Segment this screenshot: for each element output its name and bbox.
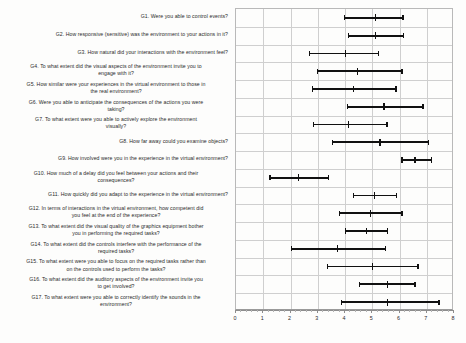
x-tick-minor [437,310,438,312]
category-label: G1. Were you able to control events? [4,13,228,20]
x-tick-minor [333,310,334,312]
x-tick [371,310,372,313]
gridline-horizontal [236,275,452,276]
x-tick-label: 7 [424,315,427,321]
mean-marker [345,50,346,57]
x-tick-label: 4 [343,315,346,321]
mean-marker [372,263,373,270]
category-label-line: G6. Were you able to anticipate the cons… [4,99,228,106]
confidence-interval-line [348,106,423,108]
x-tick-minor [355,310,356,312]
mean-marker [375,14,376,21]
category-label-line: G1. Were you able to control events? [4,13,228,20]
category-label-line: G10. How much of a delay did you feel be… [4,170,228,177]
category-label: G7. To what extent were you able to acti… [4,116,228,130]
gridline-vertical [263,9,264,309]
gridline-horizontal [236,133,452,134]
ci-lower-cap [327,264,328,269]
category-label: G10. How much of a delay did you feel be… [4,170,228,184]
gridline-horizontal [236,258,452,259]
x-tick-minor [404,310,405,312]
gridline-horizontal [236,98,452,99]
x-tick-minor [360,310,361,312]
ci-upper-cap [414,282,415,287]
gridline-horizontal [236,151,452,152]
x-tick-label: 5 [370,315,373,321]
gridline-horizontal [236,222,452,223]
mean-marker [383,103,384,110]
category-label-line: G2. How responsive (sensitive) was the e… [4,31,228,38]
category-label-line: taking? [4,106,228,113]
ci-upper-cap [422,104,423,109]
gridline-horizontal [236,204,452,205]
ci-lower-cap [341,300,342,305]
category-label: G5. How similar were your experiences in… [4,81,228,95]
category-label-line: required tasks? [4,248,228,255]
mean-marker [414,157,415,164]
gridline-horizontal [236,45,452,46]
x-tick-minor [377,310,378,312]
ci-upper-cap [438,300,439,305]
category-label-line: you feel at the end of the experience? [4,212,228,219]
mean-marker [370,210,371,217]
x-tick-minor [339,310,340,312]
confidence-interval-line [341,301,439,303]
category-label-line: G14. To what extent did the controls int… [4,241,228,248]
confidence-interval-line [317,70,401,72]
x-tick-minor [448,310,449,312]
ci-lower-cap [359,282,360,287]
x-tick-label: 2 [288,315,291,321]
ci-lower-cap [401,157,402,162]
category-label-line: engage with it? [4,70,228,77]
mean-marker [366,228,367,235]
category-label-line: G9. How involved were you in the experie… [4,155,228,162]
x-tick-minor [349,310,350,312]
x-tick-minor [300,310,301,312]
ci-upper-cap [328,175,329,180]
category-label-line: you in performing the required tasks? [4,230,228,237]
category-label-line: visually? [4,123,228,130]
x-tick-label: 8 [452,315,455,321]
gridline-horizontal [236,27,452,28]
gridline-horizontal [236,187,452,188]
category-label: G13. To what extent did the visual quali… [4,223,228,237]
category-label: G2. How responsive (sensitive) was the e… [4,31,228,38]
ci-lower-cap [291,246,292,251]
category-label: G3. How natural did your interactions wi… [4,49,228,56]
category-label: G12. In terms of interactions in the vir… [4,205,228,219]
x-tick-label: 1 [261,315,264,321]
x-tick-minor [431,310,432,312]
mean-marker [387,281,388,288]
x-tick-label: 3 [315,315,318,321]
ci-lower-cap [344,15,345,20]
category-label-line: G15. To what extent were you able to foc… [4,258,228,265]
x-tick-minor [322,310,323,312]
x-tick-minor [240,310,241,312]
mean-marker [348,121,349,128]
x-tick-minor [306,310,307,312]
category-label-line: G12. In terms of interactions in the vir… [4,205,228,212]
x-tick [426,310,427,313]
ci-upper-cap [378,51,379,56]
ci-lower-cap [347,104,348,109]
mean-marker [337,245,338,252]
gridline-horizontal [236,293,452,294]
category-label-line: consequences? [4,177,228,184]
gridline-horizontal [236,169,452,170]
category-label: G6. Were you able to anticipate the cons… [4,99,228,113]
x-tick-minor [257,310,258,312]
confidence-interval-line [291,248,386,250]
x-tick [262,310,263,313]
ci-lower-cap [332,140,333,145]
ci-lower-cap [269,175,270,180]
x-tick [453,310,454,313]
ci-lower-cap [313,122,314,127]
x-tick [235,310,236,313]
x-tick-minor [409,310,410,312]
x-tick-minor [328,310,329,312]
x-tick-label: 6 [397,315,400,321]
confidence-interval-line [309,53,378,55]
presence-questionnaire-ci-chart: G1. Were you able to control events?G2. … [0,0,466,343]
category-label-line: G4. To what extent did the visual aspect… [4,63,228,70]
ci-upper-cap [396,193,397,198]
